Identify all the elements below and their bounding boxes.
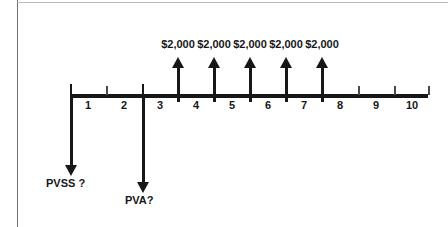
arrow-shaft — [321, 65, 324, 102]
axis-label-5: 5 — [214, 99, 250, 111]
outflow-label-pva: PVA? — [125, 194, 154, 206]
arrow-shaft — [249, 65, 252, 102]
arrow-shaft — [213, 65, 216, 102]
arrow-down-head-icon — [65, 165, 77, 176]
axis-label-10: 10 — [394, 99, 430, 111]
arrow-shaft — [285, 65, 288, 102]
arrow-down-head-icon — [137, 182, 149, 193]
axis-tick-1 — [106, 86, 108, 95]
axis-label-8: 8 — [322, 99, 358, 111]
axis-tick-10 — [428, 86, 430, 95]
axis-label-9: 9 — [358, 99, 394, 111]
arrow-shaft — [177, 65, 180, 102]
axis-tick-0 — [70, 84, 72, 96]
inflow-amount-label-5: $2,000 — [294, 38, 350, 50]
axis-label-2: 2 — [106, 99, 142, 111]
arrow-shaft — [70, 96, 73, 165]
axis-label-3: 3 — [142, 99, 178, 111]
page-frame-left-rule — [17, 0, 18, 227]
axis-label-7: 7 — [286, 99, 322, 111]
axis-tick-2 — [142, 84, 144, 96]
axis-label-6: 6 — [250, 99, 286, 111]
axis-tick-9 — [394, 86, 396, 95]
arrow-shaft — [142, 96, 145, 182]
axis-label-1: 1 — [70, 99, 106, 111]
axis-tick-8 — [358, 86, 360, 95]
axis-label-4: 4 — [178, 99, 214, 111]
cash-flow-timeline-figure: 1 2 3 4 5 6 7 8 9 10 $2,000 $2,000 $2,00… — [0, 0, 448, 227]
page-frame-top-rule — [17, 2, 448, 3]
outflow-label-pvss: PVSS ? — [46, 177, 85, 189]
